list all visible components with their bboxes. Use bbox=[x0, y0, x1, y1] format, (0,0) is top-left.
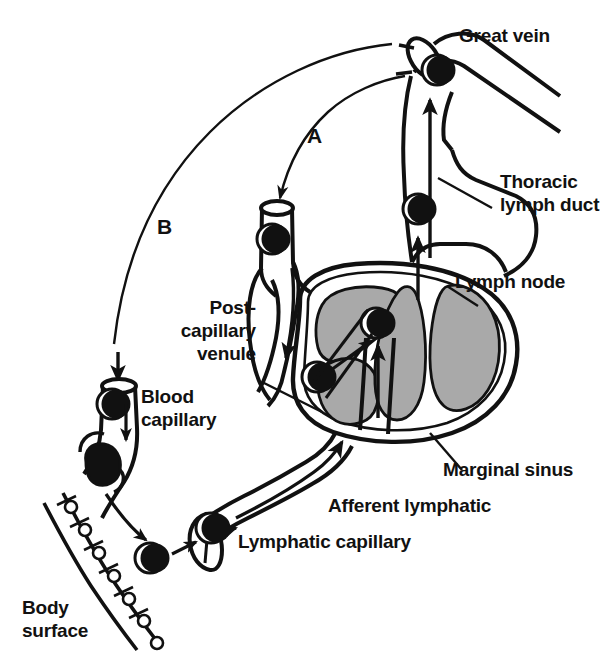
epithelial-cell-nucleus bbox=[138, 615, 150, 627]
label-great-vein: Great vein bbox=[459, 24, 550, 47]
label-body-surface-line1: Body bbox=[22, 596, 69, 619]
epithelial-cell-nucleus bbox=[151, 637, 163, 649]
lymphocyte-cell bbox=[427, 56, 456, 85]
lymphocyte-cell bbox=[367, 309, 396, 338]
lymphocyte-cell bbox=[408, 195, 437, 224]
lymphocyte-cell-emigrating bbox=[86, 444, 121, 486]
epithelial-cell-nucleus bbox=[65, 501, 77, 513]
great-vein-left-wall bbox=[403, 76, 412, 262]
label-afferent-lymphatic: Afferent lymphatic bbox=[328, 494, 491, 517]
label-marginal-sinus: Marginal sinus bbox=[443, 458, 573, 481]
lymphocyte-cell bbox=[141, 544, 170, 573]
afferent-flow-arrow bbox=[236, 442, 342, 518]
label-body-surface-line2: surface bbox=[22, 619, 88, 642]
label-lymphatic-capillary: Lymphatic capillary bbox=[238, 530, 411, 553]
label-blood-capillary-line1: Blood bbox=[141, 385, 194, 408]
label-thoracic-duct-line2: lymph duct bbox=[500, 193, 599, 216]
label-post-capillary-line3: venule bbox=[126, 342, 256, 365]
epithelial-cell-nucleus bbox=[123, 593, 135, 605]
tissue-migration-arrow bbox=[106, 494, 146, 540]
diagram-page: Great vein Thoracic lymph duct Lymph nod… bbox=[0, 0, 614, 672]
venule-flow-arrow bbox=[286, 268, 294, 358]
epithelial-cell-nucleus bbox=[79, 524, 91, 536]
label-post-capillary-line2: capillary bbox=[126, 319, 256, 342]
great-vein-right-wall bbox=[443, 92, 452, 150]
label-blood-capillary-line2: capillary bbox=[141, 408, 216, 431]
epithelial-cell-nucleus bbox=[93, 547, 105, 559]
label-lymph-node: Lymph node bbox=[455, 270, 565, 293]
label-thoracic-duct-line1: Thoracic bbox=[500, 170, 578, 193]
lymphocyte-cell bbox=[262, 225, 291, 254]
label-post-capillary-line1: Post- bbox=[126, 296, 256, 319]
label-path-b: B bbox=[157, 215, 172, 238]
path-a-line bbox=[280, 76, 405, 198]
epithelial-cell-nucleus bbox=[108, 570, 120, 582]
venule-cut-end bbox=[261, 201, 293, 215]
venule-descending-branch-inner bbox=[258, 280, 279, 392]
lymphatic-recirculation-diagram bbox=[0, 0, 614, 672]
lymphocyte-cell bbox=[202, 514, 231, 543]
great-vein-rim-tick bbox=[396, 72, 412, 74]
label-path-a: A bbox=[307, 124, 322, 147]
